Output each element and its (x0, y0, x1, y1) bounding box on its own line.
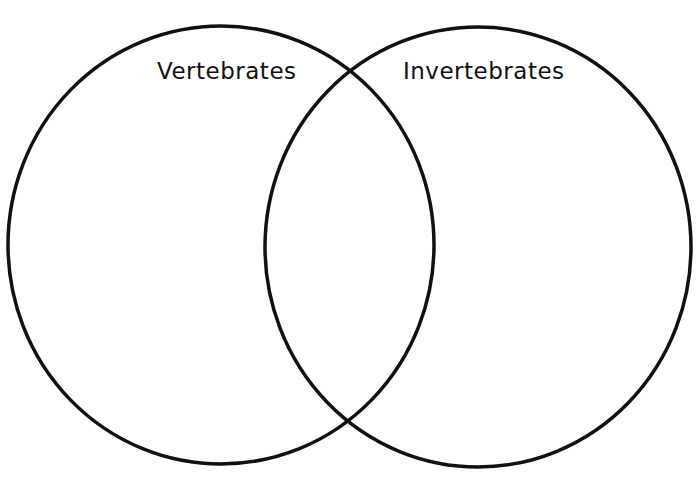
circle-vertebrates (8, 26, 434, 464)
label-invertebrates: Invertebrates (403, 58, 565, 84)
venn-diagram (0, 0, 697, 477)
circle-invertebrates (265, 27, 691, 467)
label-vertebrates: Vertebrates (157, 58, 297, 84)
